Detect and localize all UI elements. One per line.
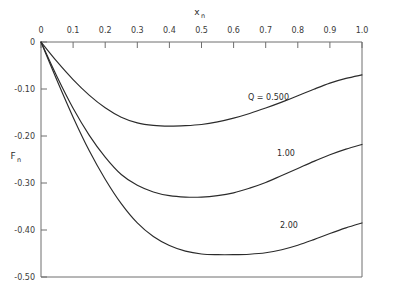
y-axis-title-base: F [10,151,15,161]
curve-label-q-2-00: 2.00 [280,221,298,230]
series-annotations: Q = 0.500 1.00 2.00 [248,93,298,230]
curve-label-q-1-00: 1.00 [277,149,295,158]
x-tick-label-1: 0.1 [67,26,80,35]
x-tick-label-6: 0.6 [227,26,240,35]
chart-figure: 0 0.1 0.2 0.3 0.4 0.5 0.6 0.7 0.8 0.9 1.… [0,0,395,291]
series-group [41,42,362,255]
x-tick-label-5: 0.5 [195,26,208,35]
x-axis-title: x n [194,7,205,20]
y-tick-label-3: -0.30 [14,179,35,188]
x-tick-label-10: 1.0 [356,26,369,35]
x-axis-tick-labels: 0 0.1 0.2 0.3 0.4 0.5 0.6 0.7 0.8 0.9 1.… [38,26,368,35]
y-tick-label-4: -0.40 [14,226,35,235]
curve-q-1-00 [41,42,362,197]
x-tick-label-4: 0.4 [163,26,176,35]
line-chart: 0 0.1 0.2 0.3 0.4 0.5 0.6 0.7 0.8 0.9 1.… [0,0,395,291]
y-axis-title: F n [10,151,21,164]
x-tick-label-0: 0 [38,26,43,35]
curve-q-0-500 [41,42,362,126]
y-tick-label-5: -0.50 [14,273,35,282]
x-tick-label-8: 0.8 [291,26,304,35]
y-tick-label-0: 0 [30,38,35,47]
y-axis-title-subscript: n [17,156,21,164]
x-tick-label-2: 0.2 [99,26,112,35]
curve-label-q-0-500: Q = 0.500 [248,93,289,102]
y-tick-label-2: -0.20 [14,132,35,141]
x-tick-label-9: 0.9 [324,26,337,35]
plot-frame [41,42,362,277]
x-axis-title-subscript: n [201,12,205,20]
curve-q-2-00 [41,42,362,255]
x-axis-ticks [41,42,362,48]
x-axis-title-base: x [194,7,200,17]
y-axis-ticks [41,42,47,277]
x-tick-label-7: 0.7 [259,26,272,35]
x-tick-label-3: 0.3 [131,26,144,35]
y-tick-label-1: -0.10 [14,85,35,94]
